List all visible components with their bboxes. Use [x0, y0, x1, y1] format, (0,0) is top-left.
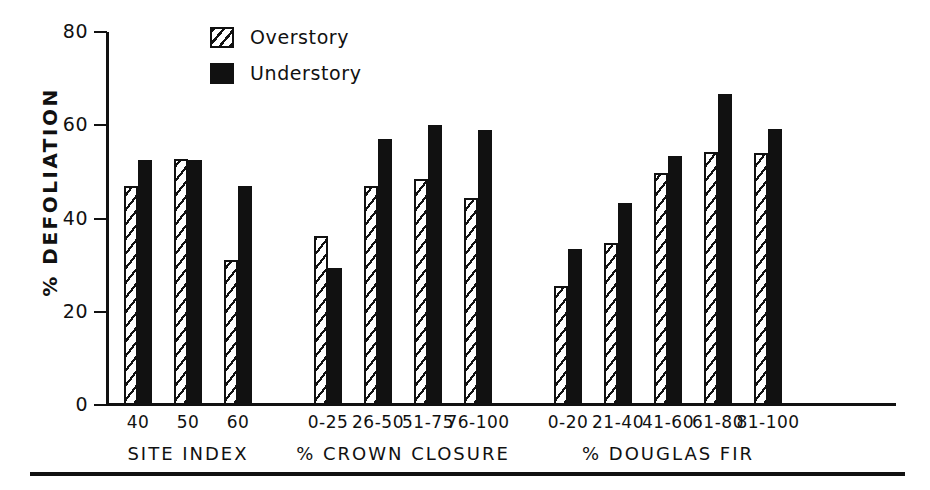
bar-understory-60 [238, 186, 252, 405]
bar-understory-26-50 [378, 139, 392, 405]
y-tick-label-80: 80 [40, 20, 88, 42]
bar-overstory-41-60 [654, 173, 668, 405]
bar-overstory-76-100 [464, 198, 478, 405]
bar-understory-0-20 [568, 249, 582, 405]
bar-overstory-81-100 [754, 153, 768, 405]
bar-overstory-0-20 [554, 286, 568, 405]
y-tick-label-0: 0 [40, 393, 88, 415]
x-label-76-100: 76-100 [433, 412, 523, 432]
bar-understory-81-100 [768, 129, 782, 405]
plot-area [106, 32, 896, 405]
bar-overstory-60 [224, 260, 238, 405]
bar-understory-40 [138, 160, 152, 405]
defoliation-bar-chart: % DEFOLIATION 020406080 Overstory Unders… [0, 0, 930, 490]
bar-understory-21-40 [618, 203, 632, 405]
bottom-rule [30, 472, 905, 476]
y-axis-title: % DEFOLIATION [38, 72, 62, 312]
x-label-60: 60 [193, 412, 283, 432]
bar-overstory-0-25 [314, 236, 328, 405]
bar-overstory-26-50 [364, 186, 378, 405]
y-tick-label-40: 40 [40, 207, 88, 229]
bar-understory-41-60 [668, 156, 682, 405]
y-tick-label-60: 60 [40, 113, 88, 135]
y-tick-label-20: 20 [40, 300, 88, 322]
bar-understory-76-100 [478, 130, 492, 405]
bar-overstory-61-80 [704, 152, 718, 405]
bar-understory-0-25 [328, 268, 342, 405]
bar-understory-50 [188, 160, 202, 405]
x-label-81-100: 81-100 [723, 412, 813, 432]
bar-overstory-21-40 [604, 243, 618, 405]
bar-understory-61-80 [718, 94, 732, 405]
group-label: % DOUGLAS FIR [508, 443, 828, 464]
bar-understory-51-75 [428, 125, 442, 405]
bar-overstory-51-75 [414, 179, 428, 405]
bar-overstory-50 [174, 159, 188, 405]
bar-overstory-40 [124, 186, 138, 405]
